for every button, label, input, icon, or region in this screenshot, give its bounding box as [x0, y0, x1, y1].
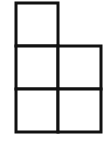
grid-cell-r0-c0 [16, 3, 58, 46]
grid-cell-r2-c1 [58, 89, 101, 132]
grid-diagram [0, 0, 110, 156]
grid-cell-r2-c0 [16, 89, 58, 132]
grid-cell-r1-c1 [58, 46, 101, 89]
grid-cell-r1-c0 [16, 46, 58, 89]
